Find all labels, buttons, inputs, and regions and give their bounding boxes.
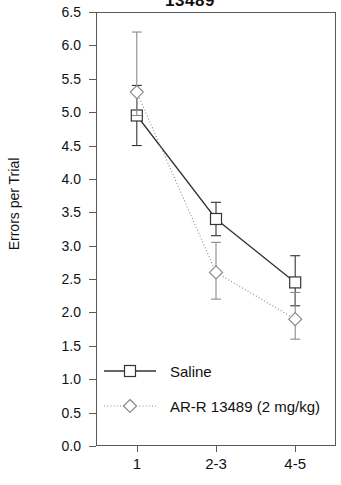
legend-sample-saline (104, 366, 156, 377)
legend-label-arr13489: AR-R 13489 (2 mg/kg) (170, 399, 320, 414)
data-point-marker-diamond (210, 266, 223, 279)
data-point-marker-square (211, 213, 222, 224)
legend-label-saline: Saline (170, 364, 212, 379)
data-point-marker-diamond (289, 313, 302, 326)
series-arr13489 (130, 32, 301, 339)
error-bar (132, 32, 142, 115)
data-point-marker-diamond (130, 86, 143, 99)
data-point-marker-square (125, 366, 136, 377)
data-point-marker-diamond (124, 400, 137, 413)
legend-sample-arr13489 (104, 400, 156, 413)
data-point-marker-square (290, 277, 301, 288)
chart-figure: 13489 Errors per Trial 6.56.05.55.04.54.… (0, 0, 341, 485)
